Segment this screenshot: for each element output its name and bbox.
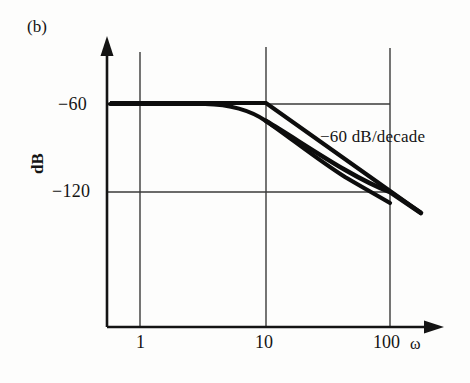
panel-label: (b) — [27, 18, 47, 35]
slope-annotation-label: −60 dB/decade — [320, 128, 425, 145]
x-tick-label-10: 10 — [255, 333, 273, 351]
x-axis-arrow-icon — [424, 321, 444, 334]
y-axis-title: dB — [29, 147, 46, 181]
x-axis-title: ω — [410, 336, 421, 352]
y-tick-label-minus-120: −120 — [52, 182, 90, 200]
x-tick-label-100: 100 — [373, 333, 400, 351]
figure-container: (b) −60 −120 dB 1 10 100 ω −60 dB/decade — [0, 0, 470, 383]
x-tick-label-1: 1 — [136, 333, 145, 351]
y-tick-label-minus-60: −60 — [58, 95, 87, 113]
y-axis-arrow-icon — [101, 36, 114, 56]
actual-response-curve — [110, 104, 390, 203]
